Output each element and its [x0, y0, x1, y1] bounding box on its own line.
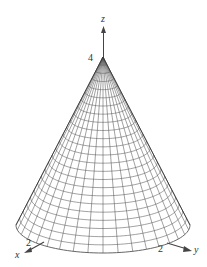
cone-meridian-line	[17, 57, 103, 230]
cone-meridian-line	[103, 57, 170, 243]
z-axis-arrow-icon	[101, 26, 106, 33]
cone-meridian-line	[36, 57, 103, 243]
cone-meridian-line	[103, 57, 189, 230]
z-axis-label: z	[100, 13, 105, 24]
cone-figure: z 4 x 2 y 2	[0, 0, 207, 267]
x-axis-tick-label: 2	[26, 237, 31, 248]
y-axis-label: y	[193, 244, 199, 255]
cone-meridian-line	[103, 57, 159, 246]
x-axis: x 2	[14, 237, 44, 260]
cone-wireframe-mesh	[16, 57, 190, 253]
y-axis-tick-label: 2	[158, 243, 163, 254]
z-axis-tick-label: 4	[88, 52, 93, 63]
cone-meridian-line	[47, 57, 103, 246]
z-axis: z 4	[88, 13, 106, 63]
x-axis-label: x	[14, 249, 20, 260]
y-axis-arrow-icon	[183, 246, 192, 252]
